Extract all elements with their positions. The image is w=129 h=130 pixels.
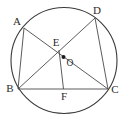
center-point-dot — [62, 55, 66, 59]
point-label-E: E — [53, 36, 60, 48]
segment-AB — [18, 28, 24, 89]
point-label-F: F — [61, 90, 67, 102]
geometry-canvas: A D B C E F O — [0, 0, 129, 130]
center-label-O: O — [67, 58, 74, 68]
point-label-A: A — [13, 15, 21, 27]
point-label-D: D — [93, 4, 101, 16]
point-label-B: B — [6, 82, 13, 94]
segment-BD — [18, 18, 95, 89]
geometry-figure: A D B C E F O — [0, 0, 129, 130]
point-label-C: C — [111, 83, 118, 95]
